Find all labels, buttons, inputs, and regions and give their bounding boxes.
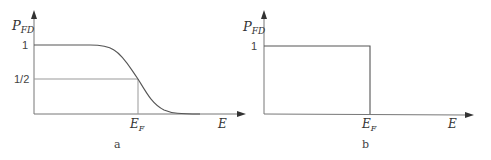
y-label-b: PFD	[242, 19, 265, 36]
caption-b: b	[362, 138, 369, 151]
xtick-ef-b: EF	[361, 117, 377, 133]
x-axis-arrow-icon	[237, 111, 246, 117]
xtick-ef-a: EF	[129, 117, 145, 133]
x-axis-arrow-icon	[465, 112, 474, 118]
y-axis-arrow-icon	[261, 10, 267, 19]
panel-a: PFD 1 1/2 EF E a	[11, 10, 246, 151]
ytick-one-a: 1	[22, 39, 28, 51]
y-axis-arrow-icon	[31, 10, 37, 19]
diagram-canvas: PFD 1 1/2 EF E a PFD 1 EF E b	[0, 0, 491, 160]
step-function	[264, 46, 370, 114]
ytick-one-b: 1	[251, 40, 257, 52]
x-label-b: E	[447, 117, 457, 131]
x-label-a: E	[217, 117, 227, 131]
ytick-half-a: 1/2	[14, 73, 29, 85]
panel-b: PFD 1 EF E b	[242, 10, 474, 151]
caption-a: a	[114, 138, 121, 151]
x-axis-b	[264, 114, 466, 115]
y-label-a: PFD	[11, 18, 34, 35]
